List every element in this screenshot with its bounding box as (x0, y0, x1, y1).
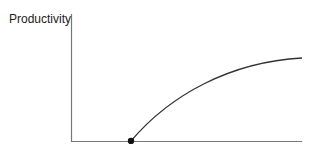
diagram-canvas (0, 0, 315, 144)
start-point-dot (128, 138, 134, 144)
productivity-curve (131, 58, 302, 141)
